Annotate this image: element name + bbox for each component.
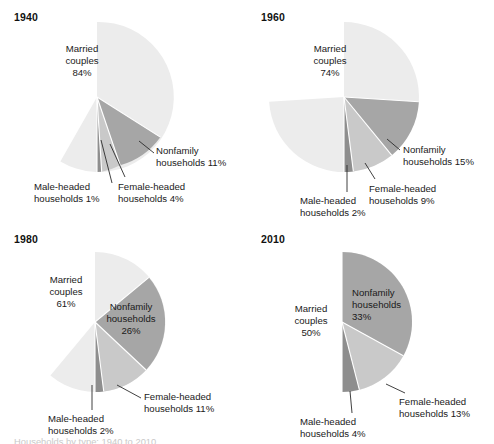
pie-1960-callout-male-headed-households: Male-headed households 2% (300, 165, 366, 218)
pie-1960-callout-female-headed-households: Female-headed households 9% (365, 163, 436, 206)
label-1960-male-line2: households 2% (300, 207, 366, 218)
label-1980-female-line1: Female-headed (144, 391, 211, 402)
pie-2010-slices (342, 252, 412, 392)
pie-panel-2010: 2010 Married couples 50% Nonfamily house… (261, 233, 470, 439)
label-1940-male-line2: households 1% (34, 193, 100, 204)
pie-panel-1940: 1940 Married couples 84% Nonfamily house… (14, 11, 227, 204)
label-2010-male-line2: households 4% (300, 428, 366, 439)
label-1960-female-line1: Female-headed (369, 183, 436, 194)
label-1940-female-line2: households 4% (118, 193, 184, 204)
label-1980-nonfamily-line3: 26% (121, 325, 141, 336)
label-2010-married-line2: couples (294, 315, 327, 326)
label-1980-nonfamily-line1: Nonfamily (110, 301, 153, 312)
panel-title-1960: 1960 (261, 11, 285, 23)
label-1960-nonfamily-line1: Nonfamily (403, 144, 446, 155)
bottom-clipped-caption: Households by type: 1940 to 2010 (14, 436, 244, 444)
label-1980-married-line3: 61% (56, 298, 76, 309)
leader-line-2010-female-headed (386, 384, 405, 393)
pie-1980-callout-male-headed-households: Male-headed households 2% (48, 385, 114, 436)
label-2010-married-line1: Married (295, 303, 328, 314)
label-1960-married-line1: Married (314, 43, 347, 54)
label-1940-male-line1: Male-headed (34, 181, 90, 192)
pie-2010-inside-label-married-couples: Married couples 50% (294, 303, 327, 338)
pie-1980-callout-female-headed-households: Female-headed households 11% (117, 385, 215, 414)
pie-1980-inside-label-married-couples: Married couples 61% (49, 274, 82, 309)
label-1960-married-line2: couples (313, 55, 346, 66)
leader-line-1980-female-headed (117, 385, 141, 398)
label-1940-nonfamily-line1: Nonfamily (156, 145, 199, 156)
label-2010-married-line3: 50% (301, 327, 321, 338)
label-1960-male-line1: Male-headed (300, 195, 356, 206)
pie-1940-inside-label-married-couples: Married couples 84% (65, 43, 98, 78)
label-2010-female-line1: Female-headed (399, 396, 466, 407)
label-1980-married-line1: Married (50, 274, 83, 285)
label-2010-female-line2: households 13% (399, 408, 470, 419)
pie-2010-callout-male-headed-households: Male-headed households 4% (300, 391, 366, 439)
label-1980-male-line2: households 2% (48, 425, 114, 436)
label-2010-nonfamily-line2: households (352, 299, 401, 310)
label-1960-nonfamily-line2: households 15% (403, 156, 474, 167)
label-1980-female-line2: households 11% (144, 403, 215, 414)
household-type-pie-chart-figure: 1940 Married couples 84% Nonfamily house… (0, 0, 494, 444)
panel-title-1940: 1940 (14, 11, 38, 23)
label-1940-nonfamily-line2: households 11% (156, 157, 227, 168)
label-1960-married-line3: 74% (320, 67, 340, 78)
label-1940-married-line2: couples (65, 55, 98, 66)
leader-line-2010-male-headed (350, 391, 352, 413)
label-1960-female-line2: households 9% (369, 195, 435, 206)
panel-title-1980: 1980 (14, 233, 38, 245)
label-1980-male-line1: Male-headed (48, 413, 104, 424)
pie-2010-callout-female-headed-households: Female-headed households 13% (386, 384, 470, 419)
label-2010-nonfamily-line1: Nonfamily (352, 287, 395, 298)
label-2010-nonfamily-line3: 33% (352, 311, 372, 322)
label-1980-married-line2: couples (49, 286, 82, 297)
pie-1960-inside-label-married-couples: Married couples 74% (313, 43, 346, 78)
label-1940-married-line1: Married (66, 43, 99, 54)
pie-panel-1980: 1980 Married couples 61% Nonfamily house… (14, 233, 215, 436)
label-1940-female-line1: Female-headed (118, 181, 185, 192)
panel-title-2010: 2010 (261, 233, 285, 245)
label-2010-male-line1: Male-headed (300, 416, 356, 427)
label-1980-nonfamily-line2: households (106, 313, 155, 324)
label-1940-married-line3: 84% (72, 67, 92, 78)
pie-panel-1960: 1960 Married couples 74% Nonfamily house… (261, 11, 474, 218)
